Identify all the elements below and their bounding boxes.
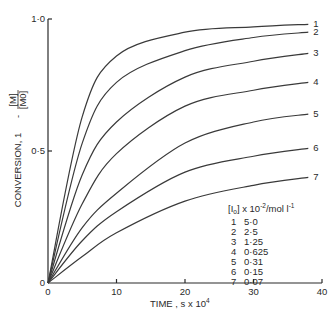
x-tick-label: 20: [180, 286, 191, 297]
y-axis-title: CONVERSION, 1 [M] [M0] -: [7, 90, 28, 207]
legend-row-value: 0·07: [244, 276, 263, 287]
legend: [Io] x 10-2/mol l-1 15·022·531·2540·6255…: [228, 202, 295, 287]
svg-text:-: -: [12, 115, 23, 118]
y-tick-label: 0·5: [31, 145, 45, 156]
x-tick-label: 30: [248, 286, 259, 297]
curve-labels: 1234567: [313, 18, 318, 182]
svg-text:CONVERSION, 1: CONVERSION, 1: [12, 133, 23, 207]
x-tick-label: 40: [317, 286, 328, 297]
legend-rows: 15·022·531·2540·62550·3160·1570·07: [231, 216, 268, 287]
x-tick-label: 10: [111, 286, 122, 297]
curve-label-6: 6: [313, 142, 318, 153]
legend-row-number: 7: [231, 276, 236, 287]
x-axis-title: TIME , s x 104: [150, 297, 210, 309]
x-ticks: 010203040: [45, 279, 327, 297]
curve-6: [48, 148, 308, 283]
curve-label-7: 7: [313, 171, 318, 182]
curve-label-5: 5: [313, 108, 318, 119]
axes: [48, 19, 322, 283]
conversion-vs-time-chart: 010203040 00·51·0 1234567 TIME , s x 104…: [0, 0, 335, 317]
curve-label-3: 3: [313, 47, 318, 58]
curve-5: [48, 114, 308, 283]
y-tick-label: 1·0: [31, 13, 45, 24]
curve-2: [48, 32, 308, 283]
x-tick-label: 0: [45, 286, 50, 297]
curve-label-2: 2: [313, 26, 318, 37]
legend-title: [Io] x 10-2/mol l-1: [228, 202, 295, 215]
curve-label-4: 4: [313, 76, 318, 87]
curves: [48, 24, 308, 283]
y-tick-label: 0: [40, 277, 45, 288]
svg-text:[M0]: [M0]: [17, 91, 28, 109]
y-ticks: 00·51·0: [31, 13, 52, 288]
curve-7: [48, 177, 308, 283]
